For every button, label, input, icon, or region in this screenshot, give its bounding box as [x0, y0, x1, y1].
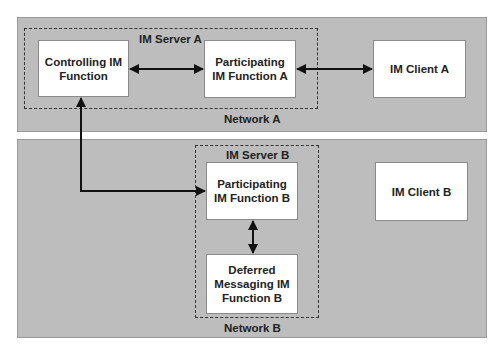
- connection-arrows: [0, 0, 504, 361]
- arrow-controlling-participating-b: [81, 98, 205, 191]
